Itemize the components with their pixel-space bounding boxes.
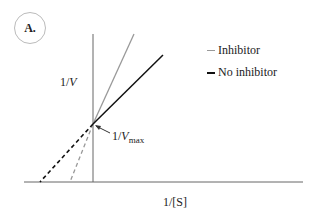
inhibitor-extrapolation bbox=[70, 124, 93, 182]
legend-item-no-inhibitor: No inhibitor bbox=[207, 65, 277, 80]
lineweaver-burk-plot bbox=[0, 0, 311, 215]
inhibitor-line bbox=[93, 34, 134, 124]
intercept-prefix: 1/ bbox=[112, 129, 121, 143]
panel-label-badge: A. bbox=[14, 12, 46, 44]
legend-swatch-no-inhibitor bbox=[207, 72, 215, 74]
arrow-head-icon bbox=[95, 125, 101, 130]
legend-item-inhibitor: Inhibitor bbox=[207, 43, 260, 58]
y-axis-label: 1/V bbox=[60, 76, 77, 88]
no-inhibitor-extrapolation bbox=[40, 124, 93, 182]
y-label-var: V bbox=[69, 75, 76, 89]
y-label-prefix: 1/ bbox=[60, 75, 69, 89]
x-axis-label: 1/[S] bbox=[163, 196, 187, 208]
intercept-sub: max bbox=[129, 135, 145, 145]
no-inhibitor-line bbox=[93, 55, 163, 124]
legend-swatch-inhibitor bbox=[207, 50, 215, 51]
intercept-var: V bbox=[121, 129, 128, 143]
panel-label: A. bbox=[24, 21, 36, 36]
legend-label-inhibitor: Inhibitor bbox=[218, 43, 260, 58]
intercept-label: 1/Vmax bbox=[112, 130, 144, 145]
legend-label-no-inhibitor: No inhibitor bbox=[218, 65, 277, 80]
